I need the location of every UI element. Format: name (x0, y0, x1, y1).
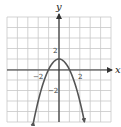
graph: x y −2 2 2 −2 (0, 0, 121, 127)
tick-y-neg2: −2 (48, 87, 58, 95)
x-axis-label: x (115, 64, 121, 75)
tick-x-neg2: −2 (33, 73, 43, 81)
y-axis-label: y (55, 1, 62, 12)
tick-y-pos2: 2 (53, 47, 57, 55)
tick-x-pos2: 2 (78, 73, 82, 81)
